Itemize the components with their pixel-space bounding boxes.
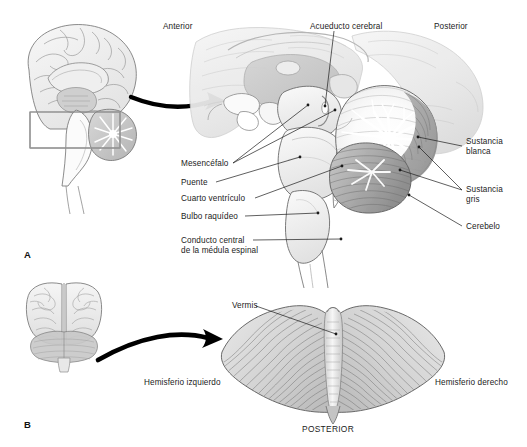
label-sustancia-blanca-line2: blanca [466,147,491,158]
label-conducto-central-line2: de la médula espinal [181,246,258,257]
label-acueducto-cerebral: Acueducto cerebral [310,22,382,33]
label-posterior-a: Posterior [434,22,468,33]
panel-letter-b: B [24,419,31,430]
panel-letter-a: A [24,249,31,260]
label-sustancia-blanca-line1: Sustancia [466,137,503,148]
label-bulbo-raquideo: Bulbo raquídeo [181,212,238,223]
massa-intermedia [276,61,300,75]
figure-canvas: Anterior Posterior Acueducto cerebral Me… [0,0,527,447]
label-mesencefalo: Mesencéfalo [181,159,229,170]
panel-b-inset-posterior-brain [26,283,101,372]
label-vermis: Vermis [232,301,258,312]
label-anterior: Anterior [163,22,192,33]
label-cerebelo: Cerebelo [466,222,500,233]
label-cuarto-ventriculo: Cuarto ventrículo [181,194,245,205]
panel-a-inset-sagittal-brain [28,25,136,214]
label-sustancia-gris-line1: Sustancia [466,185,503,196]
central-canal-line [310,264,313,288]
label-hemisferio-izquierdo: Hemisferio izquierdo [144,378,221,389]
label-puente: Puente [181,178,208,189]
label-conducto-central-line1: Conducto central [181,236,245,247]
panel-b-cerebellum-superior [220,304,446,424]
label-sustancia-gris-line2: gris [466,195,480,206]
label-posterior-b: POSTERIOR [302,424,354,434]
label-hemisferio-derecho: Hemisferio derecho [435,378,508,389]
panel-b-pointer-arrow [98,329,223,360]
